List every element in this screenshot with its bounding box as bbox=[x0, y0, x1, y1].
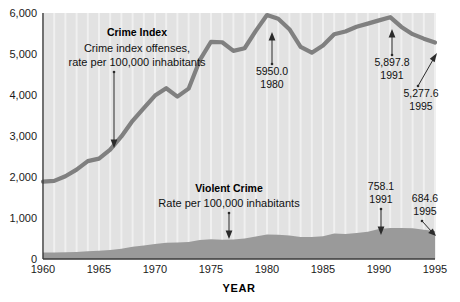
violent-1991-anchor-dot bbox=[380, 208, 383, 211]
x-axis-title: YEAR bbox=[223, 282, 256, 294]
crime-index-callout-anchor-dot bbox=[113, 71, 116, 74]
violent-1995-anchor-dot bbox=[421, 220, 424, 223]
violent-1991-year: 1991 bbox=[369, 193, 393, 205]
y-tick-label-5000: 5,000 bbox=[9, 48, 37, 60]
end-1995-year: 1995 bbox=[409, 100, 433, 112]
peak-1991-year: 1991 bbox=[380, 69, 404, 81]
end-1995-anchor-dot bbox=[417, 85, 420, 88]
y-tick-label-4000: 4,000 bbox=[9, 89, 37, 101]
peak-1991-anchor-dot bbox=[391, 54, 394, 57]
violent-crime-callout-title: Violent Crime bbox=[195, 182, 263, 194]
violent-crime-callout-line1: Rate per 100,000 inhabitants bbox=[158, 197, 300, 209]
y-tick-label-1000: 1,000 bbox=[9, 212, 37, 224]
crime-index-callout-title: Crime Index bbox=[107, 26, 167, 38]
violent-1995-year: 1995 bbox=[413, 205, 437, 217]
peak-1980-year: 1980 bbox=[260, 78, 284, 90]
peak-1991-value: 5,897.8 bbox=[374, 56, 409, 68]
violent-crime-callout-anchor-dot bbox=[228, 212, 231, 215]
x-tick-label-1975: 1975 bbox=[199, 263, 223, 275]
peak-1980-value: 5950.0 bbox=[256, 65, 288, 77]
chart-svg: 01,0002,0003,0004,0005,0006,000 19601965… bbox=[0, 0, 460, 302]
x-tick-label-1980: 1980 bbox=[255, 263, 279, 275]
x-tick-label-1990: 1990 bbox=[367, 263, 391, 275]
crime-index-callout-line2: rate per 100,000 inhabitants bbox=[69, 56, 206, 68]
x-tick-label-1985: 1985 bbox=[311, 263, 335, 275]
violent-1995-value: 684.6 bbox=[412, 192, 438, 204]
x-tick-label-1970: 1970 bbox=[143, 263, 167, 275]
crime-index-callout-line1: Crime index offenses, bbox=[84, 42, 190, 54]
y-tick-label-3000: 3,000 bbox=[9, 130, 37, 142]
x-tick-label-1965: 1965 bbox=[87, 263, 111, 275]
end-1995-value: 5,277.6 bbox=[403, 87, 438, 99]
peak-1980-anchor-dot bbox=[271, 63, 274, 66]
y-tick-label-2000: 2,000 bbox=[9, 171, 37, 183]
x-tick-label-1960: 1960 bbox=[31, 263, 55, 275]
crime-rate-chart-figure: 01,0002,0003,0004,0005,0006,000 19601965… bbox=[0, 0, 460, 302]
violent-1991-value: 758.1 bbox=[368, 180, 394, 192]
x-tick-label-1995: 1995 bbox=[423, 263, 447, 275]
y-tick-label-6000: 6,000 bbox=[9, 7, 37, 19]
